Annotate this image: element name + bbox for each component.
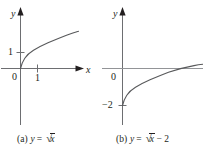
y-tick-label-1: 1 xyxy=(8,47,13,57)
caption-b-lhs: y xyxy=(130,134,134,144)
y-axis-label: y xyxy=(11,9,15,19)
y-axis-arrow xyxy=(17,7,23,16)
caption-a-equals: = xyxy=(37,134,42,144)
caption-a: (a)y=√x xyxy=(17,133,55,144)
caption-a-radicand: x xyxy=(50,133,56,144)
caption-b-tail: − 2 xyxy=(156,134,168,144)
curve-sqrt-x xyxy=(21,31,79,68)
caption-a-lhs: y xyxy=(31,134,35,144)
caption-b-radical: √x xyxy=(145,133,155,144)
curve-sqrt-x-minus-2 xyxy=(123,64,204,105)
caption-b-prefix: (b) xyxy=(116,134,127,144)
caption-b: (b)y=√x− 2 xyxy=(116,133,169,144)
origin-label: 0 xyxy=(111,72,116,82)
y-axis-label: y xyxy=(113,9,117,19)
origin-label: 0 xyxy=(12,72,17,82)
caption-b-equals: = xyxy=(136,134,141,144)
figure-root: y x 0 1 1 (a)y=√x y 0 −2 (b)y=√x− 2 xyxy=(0,0,203,153)
caption-b-radicand: x xyxy=(149,133,155,144)
x-axis-arrow xyxy=(76,65,85,71)
y-tick-label-minus2: −2 xyxy=(102,100,113,110)
caption-a-radical: √x xyxy=(45,133,55,144)
panel-b: y 0 −2 (b)y=√x− 2 xyxy=(100,0,203,153)
x-tick-label-1: 1 xyxy=(35,73,40,83)
panel-a: y x 0 1 1 (a)y=√x xyxy=(0,0,103,153)
x-axis-label: x xyxy=(86,65,90,75)
caption-a-prefix: (a) xyxy=(17,134,28,144)
y-axis-arrow xyxy=(119,7,125,16)
